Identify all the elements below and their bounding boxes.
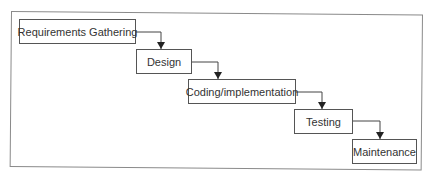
step-label: Maintenance bbox=[353, 146, 416, 158]
arrowhead-icon bbox=[318, 102, 326, 109]
step-label: Requirements Gathering bbox=[18, 26, 138, 38]
arrowhead-icon bbox=[157, 42, 165, 49]
step-label: Coding/implementation bbox=[186, 86, 299, 98]
step-requirements-gathering: Requirements Gathering bbox=[19, 19, 136, 44]
arrow-requirements-to-design bbox=[135, 32, 161, 49]
step-testing: Testing bbox=[294, 109, 353, 134]
step-label: Design bbox=[147, 56, 181, 68]
arrow-design-to-coding bbox=[191, 62, 218, 79]
step-maintenance: Maintenance bbox=[352, 139, 417, 164]
arrowhead-icon bbox=[376, 132, 384, 139]
step-design: Design bbox=[136, 49, 192, 74]
step-coding-implementation: Coding/implementation bbox=[188, 79, 296, 104]
arrow-coding-to-testing bbox=[295, 92, 322, 109]
arrowhead-icon bbox=[214, 72, 222, 79]
arrow-testing-to-maintenance bbox=[352, 121, 380, 139]
step-label: Testing bbox=[306, 116, 341, 128]
